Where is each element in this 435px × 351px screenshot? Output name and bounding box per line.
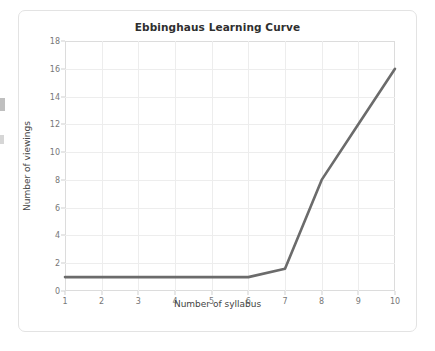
y-tick-label: 2	[55, 259, 60, 268]
x-tick-mark	[285, 291, 286, 295]
x-tick-mark	[175, 291, 176, 295]
x-axis-title: Number of syllabus	[19, 299, 416, 309]
y-tick-label: 16	[50, 64, 60, 73]
y-tick-label: 18	[50, 37, 60, 46]
x-tick-mark	[321, 291, 322, 295]
y-tick-label: 8	[55, 175, 60, 184]
x-tick-mark	[65, 291, 66, 295]
x-tick-mark	[211, 291, 212, 295]
series-line-chart	[65, 41, 395, 291]
x-tick-mark	[248, 291, 249, 295]
x-tick-mark	[138, 291, 139, 295]
series-polyline-ebbinghaus	[65, 69, 395, 277]
y-tick-label: 10	[50, 148, 60, 157]
y-tick-label: 6	[55, 203, 60, 212]
y-tick-label: 4	[55, 231, 60, 240]
y-tick-label: 12	[50, 120, 60, 129]
x-tick-mark	[101, 291, 102, 295]
plot-area: 02468101214161812345678910	[65, 41, 395, 291]
y-tick-label: 14	[50, 92, 60, 101]
x-tick-mark	[358, 291, 359, 295]
edge-fragment-lower	[0, 135, 4, 144]
edge-fragment-upper	[0, 98, 5, 111]
x-tick-mark	[395, 291, 396, 295]
chart-card: Ebbinghaus Learning Curve Number of view…	[18, 10, 417, 332]
y-tick-label: 0	[55, 287, 60, 296]
chart-title: Ebbinghaus Learning Curve	[19, 21, 416, 33]
y-axis-title: Number of viewings	[22, 121, 32, 211]
